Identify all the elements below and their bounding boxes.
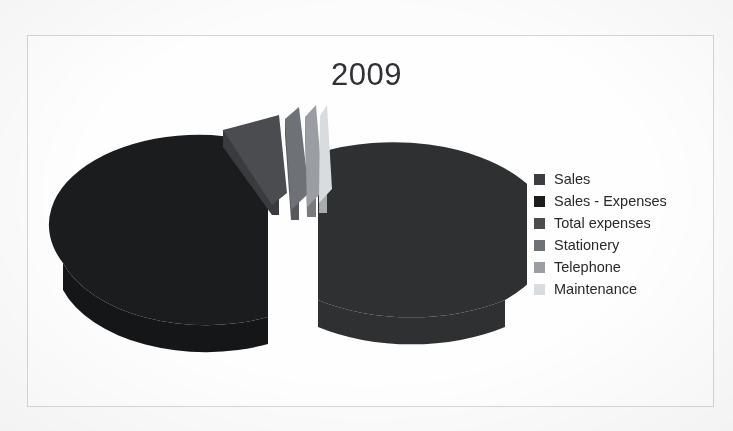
- legend-swatch-icon: [534, 262, 545, 273]
- legend-label: Telephone: [554, 260, 621, 275]
- legend-item-telephone[interactable]: Telephone: [534, 256, 704, 278]
- legend-swatch-icon: [534, 284, 545, 295]
- chart-legend: Sales Sales - Expenses Total expenses St…: [534, 168, 704, 300]
- legend-swatch-icon: [534, 240, 545, 251]
- pie-slice-sales-expenses: [49, 135, 268, 352]
- legend-item-maintenance[interactable]: Maintenance: [534, 278, 704, 300]
- legend-label: Maintenance: [554, 282, 637, 297]
- legend-swatch-icon: [534, 174, 545, 185]
- legend-item-sales-expenses[interactable]: Sales - Expenses: [534, 190, 704, 212]
- legend-label: Sales: [554, 172, 590, 187]
- pie-chart-svg: [27, 95, 527, 395]
- legend-item-sales[interactable]: Sales: [534, 168, 704, 190]
- pie-slice-sales: [318, 142, 527, 344]
- chart-title: 2009: [0, 57, 733, 93]
- legend-swatch-icon: [534, 218, 545, 229]
- legend-label: Total expenses: [554, 216, 651, 231]
- legend-label: Sales - Expenses: [554, 194, 667, 209]
- legend-label: Stationery: [554, 238, 619, 253]
- scanned-page: 2009: [0, 0, 733, 431]
- legend-swatch-icon: [534, 196, 545, 207]
- legend-item-total-expenses[interactable]: Total expenses: [534, 212, 704, 234]
- pie-chart-3d: [27, 95, 527, 395]
- legend-item-stationery[interactable]: Stationery: [534, 234, 704, 256]
